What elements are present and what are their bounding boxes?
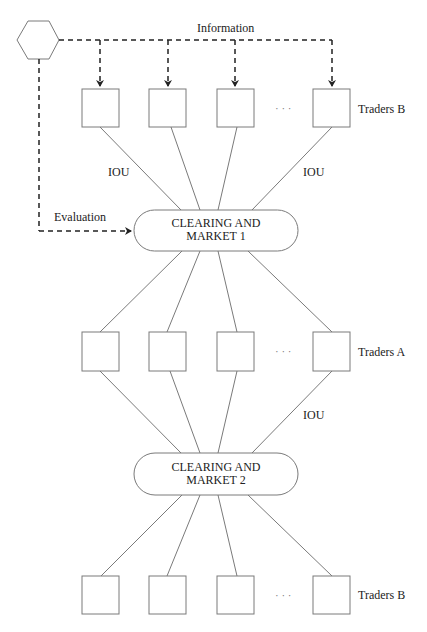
traders-a-label: Traders A xyxy=(358,346,405,358)
traders-a-boxes xyxy=(82,332,350,371)
trader-box xyxy=(149,89,186,127)
trader-box xyxy=(149,332,186,371)
information-label: Information xyxy=(197,22,254,34)
traders-b-top-label: Traders B xyxy=(358,103,405,115)
market1-label: CLEARING AND MARKET 1 xyxy=(134,217,298,243)
diagram-canvas xyxy=(0,0,427,632)
ellipsis-top: · · · xyxy=(275,103,292,114)
connectors-middle-to-market2 xyxy=(100,371,332,453)
trader-box xyxy=(217,576,254,614)
market1-line2: MARKET 1 xyxy=(134,230,298,243)
trader-box xyxy=(149,576,186,614)
connectors-top-to-market1 xyxy=(100,127,332,210)
traders-b-bottom-boxes xyxy=(82,576,350,614)
market2-label: CLEARING AND MARKET 2 xyxy=(134,461,298,487)
trader-box xyxy=(82,332,119,371)
iou-label-right: IOU xyxy=(303,166,324,178)
trader-box xyxy=(313,576,350,614)
iou-label-middle: IOU xyxy=(303,409,324,421)
traders-b-top-boxes xyxy=(82,89,350,127)
trader-box xyxy=(217,89,254,127)
ellipsis-bottom: · · · xyxy=(275,590,292,601)
trader-box xyxy=(217,332,254,371)
trader-box xyxy=(82,576,119,614)
market2-line2: MARKET 2 xyxy=(134,474,298,487)
connectors-market1-to-middle xyxy=(100,251,332,332)
trader-box xyxy=(313,332,350,371)
information-dashed-lines xyxy=(59,40,332,86)
trader-box xyxy=(82,89,119,127)
connectors-market2-to-bottom xyxy=(101,495,332,576)
traders-b-bottom-label: Traders B xyxy=(358,589,405,601)
iou-label-left: IOU xyxy=(108,166,129,178)
ellipsis-middle: · · · xyxy=(275,346,292,357)
information-source-hexagon xyxy=(17,21,59,59)
trader-box xyxy=(313,89,350,127)
evaluation-label: Evaluation xyxy=(54,211,106,223)
